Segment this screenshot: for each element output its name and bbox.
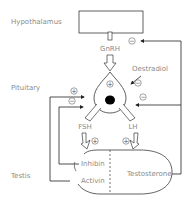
fsh-arm bbox=[85, 104, 101, 121]
label-gnrh: GnRH bbox=[100, 45, 120, 53]
lh-arm bbox=[119, 104, 135, 121]
gnrh-arrow-icon bbox=[104, 55, 116, 71]
label-lh: LH bbox=[128, 123, 137, 131]
svg-text:−: − bbox=[69, 97, 74, 104]
gnrh-stalk bbox=[108, 32, 112, 40]
svg-text:+: + bbox=[123, 137, 128, 144]
label-inhibin: Inhibin bbox=[81, 160, 105, 168]
svg-text:+: + bbox=[92, 137, 97, 144]
lh-arrow-icon bbox=[130, 133, 139, 149]
label-activin: Activin bbox=[81, 177, 105, 185]
svg-text:−: − bbox=[140, 93, 145, 100]
svg-text:+: + bbox=[107, 80, 112, 87]
svg-text:+: + bbox=[71, 87, 76, 94]
hypothalamus-box bbox=[79, 11, 143, 33]
label-hypothalamus: Hypothalamus bbox=[11, 18, 62, 26]
label-pituitary: Pituitary bbox=[11, 84, 40, 92]
svg-text:−: − bbox=[135, 79, 140, 86]
label-testosterone: Testosterone bbox=[126, 170, 172, 178]
label-oestradiol: Oestradiol bbox=[132, 65, 168, 73]
label-fsh: FSH bbox=[78, 123, 92, 131]
inhibin-feedback bbox=[59, 107, 83, 164]
svg-text:−: − bbox=[129, 37, 134, 44]
label-testis: Testis bbox=[10, 172, 31, 180]
activin-feedback bbox=[50, 97, 84, 181]
fsh-arrow-icon bbox=[81, 133, 90, 149]
hpg-axis-diagram: Hypothalamus Pituitary Testis GnRH + Oes… bbox=[0, 0, 188, 205]
nucleus bbox=[105, 96, 115, 105]
